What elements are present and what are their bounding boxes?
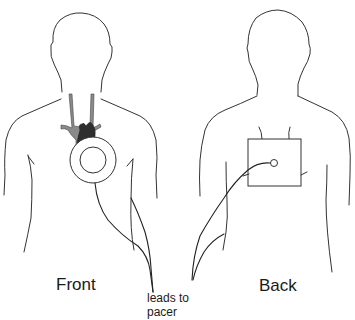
front-head-outline [51, 13, 113, 92]
leads-label-line2: pacer [147, 305, 177, 319]
front-label: Front [56, 275, 96, 294]
back-right-torso-line [326, 165, 332, 272]
front-lead-1 [95, 183, 153, 292]
back-lead-2 [193, 234, 224, 280]
pacer-device-outer [70, 137, 116, 183]
front-lead-2 [131, 198, 153, 292]
front-left-torso-line [24, 155, 32, 252]
front-figure [4, 13, 157, 292]
back-label: Back [259, 276, 297, 295]
back-scapula-right [289, 127, 290, 139]
pacemaker-diagram: Front Back leads to pacer [0, 0, 355, 320]
lead-connector-circle [271, 160, 278, 167]
back-head-outline [247, 10, 310, 96]
back-figure [192, 10, 350, 280]
back-right-shoulder-outline [298, 96, 350, 205]
leads-label-line1: leads to [147, 291, 189, 305]
back-left-torso-line [223, 162, 227, 250]
back-scapula-left [259, 127, 262, 139]
patch-right-tick [301, 172, 307, 175]
